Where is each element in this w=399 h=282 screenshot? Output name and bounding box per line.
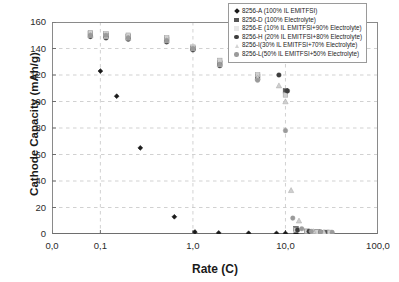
series-5	[88, 33, 334, 234]
x-tick-label: 0,1	[80, 240, 120, 251]
x-tick-label: 10,0	[265, 240, 305, 251]
legend-marker-icon	[232, 26, 241, 31]
legend-item-label: 8256-E (10% IL EMITFSI+90% Electrolyte)	[242, 24, 362, 33]
x-tick-label: 1,0	[173, 240, 213, 251]
y-tick-label: 100	[20, 97, 46, 107]
series-3	[88, 34, 323, 234]
legend-item: 8256-A (100% IL EMITFSI)	[232, 7, 362, 16]
chart-figure: Cathode Capacity (mAh/g) Rate (C) 020406…	[0, 0, 399, 282]
chart-legend: 8256-A (100% IL EMITFSI)8256-D (100% Ele…	[228, 3, 367, 63]
y-tick-label: 60	[20, 150, 46, 160]
legend-marker-icon	[232, 9, 241, 13]
legend-item-label: 8256-D (100% Electrolyte)	[242, 16, 316, 25]
y-tick-label: 40	[20, 176, 46, 186]
x-tick-label: 100,0	[358, 240, 398, 251]
legend-item-label: 8256-L(50% IL EMITFSI+50% Electrolyte)	[242, 50, 359, 59]
legend-item: 8256-H (20% IL EMITFSI+80% Electrolyte)	[232, 33, 362, 42]
y-tick-label: 160	[20, 17, 46, 27]
legend-item-label: 8256-I(30% IL EMITFSI+70% Electrolyte)	[242, 41, 357, 50]
y-tick-label: 20	[20, 203, 46, 213]
y-tick-label: 120	[20, 70, 46, 80]
x-axis-label: Rate (C)	[52, 262, 378, 276]
legend-item: 8256-L(50% IL EMITFSI+50% Electrolyte)	[232, 50, 362, 59]
series-4	[88, 33, 327, 234]
legend-item-label: 8256-H (20% IL EMITFSI+80% Electrolyte)	[242, 33, 362, 42]
legend-item-label: 8256-A (100% IL EMITFSI)	[242, 7, 317, 16]
legend-item: 8256-I(30% IL EMITFSI+70% Electrolyte)	[232, 41, 362, 50]
y-tick-label: 0	[20, 229, 46, 239]
y-tick-label: 80	[20, 123, 46, 133]
legend-marker-icon	[232, 52, 241, 57]
legend-marker-icon	[232, 44, 241, 48]
legend-marker-icon	[232, 18, 241, 23]
legend-item: 8256-E (10% IL EMITFSI+90% Electrolyte)	[232, 24, 362, 33]
legend-marker-icon	[232, 35, 241, 40]
x-tick-label: 0,0	[32, 240, 72, 251]
y-tick-label: 140	[20, 44, 46, 54]
series-0	[98, 69, 298, 234]
legend-item: 8256-D (100% Electrolyte)	[232, 16, 362, 25]
